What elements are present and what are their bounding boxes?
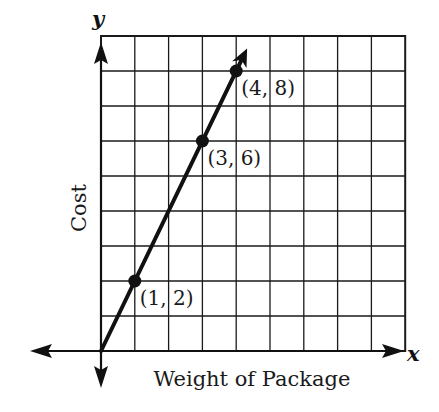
y-axis-title: Cost [67, 183, 91, 231]
point-label: (3, 6) [207, 146, 261, 170]
y-axis-letter: y [91, 6, 106, 31]
line-chart: (1, 2)(3, 6)(4, 8) x y Weight of Package… [0, 0, 439, 412]
x-axis-title: Weight of Package [154, 367, 351, 391]
point-label: (4, 8) [241, 76, 295, 100]
x-axis-letter: x [406, 341, 420, 366]
point-label: (1, 2) [140, 286, 194, 310]
